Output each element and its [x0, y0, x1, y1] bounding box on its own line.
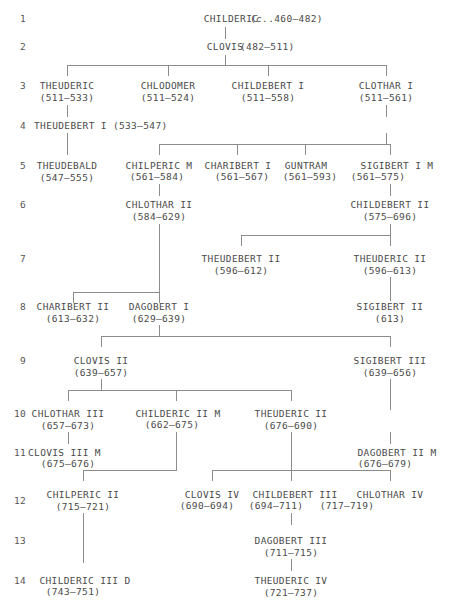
person-dates: (511–533)	[22, 92, 112, 104]
person-dagobert-ii-dates: (676–679)	[340, 458, 430, 470]
person-name: THEUDEBERT I (533–547)	[34, 120, 214, 132]
sibling-bar-gen9	[101, 336, 390, 337]
connector-childeric-ii-down	[176, 432, 177, 470]
connector-childebert-iii-to-dagobert-iii	[291, 513, 292, 525]
connector-chlothar-ii-down	[159, 224, 160, 292]
sibling-bar-gen10	[68, 390, 291, 391]
sibling-bar-gen8	[73, 292, 160, 293]
person-name: SIGIBERT II	[345, 301, 435, 313]
person-name: THEUDEBERT II	[196, 253, 286, 265]
person-childeric-iii: CHILDERIC III D	[33, 575, 137, 587]
person-name: THEUDERIC IV	[246, 575, 336, 587]
drop-theuderic-ii	[390, 235, 391, 246]
person-chilperic-i: CHILPERIC M	[112, 160, 206, 172]
person-name: CHILPERIC M	[112, 160, 206, 172]
drop-sigibert-i	[390, 144, 391, 155]
person-chlothar-iv: CHLOTHAR IV	[346, 489, 434, 501]
person-childeric-i-dates: (c..460–482)	[250, 13, 370, 25]
person-clovis-iii: CLOVIS III M	[28, 447, 138, 459]
person-dates: (715–721)	[38, 501, 128, 513]
drop-charibert-i	[237, 144, 238, 155]
person-name: CHLOTHAR III	[23, 408, 113, 420]
connector-childebert-ii-down	[390, 224, 391, 235]
person-dates: (629–639)	[114, 313, 204, 325]
person-sigibert-iii: SIGIBERT III (639–656)	[345, 355, 435, 378]
generation-number-8: 8	[20, 301, 26, 312]
connector-theuderic-ii-676-down	[291, 432, 292, 470]
person-name: CHILDEBERT III	[247, 489, 343, 501]
person-theudebert-ii: THEUDEBERT II (596–612)	[196, 253, 286, 276]
person-name: THEUDEBALD	[22, 160, 112, 172]
person-dates: (613–632)	[28, 313, 118, 325]
person-dates: (482–511)	[240, 41, 350, 53]
person-dates: (721–737)	[246, 587, 336, 599]
drop-theudebert-ii	[241, 235, 242, 246]
generation-number-14: 14	[14, 575, 26, 586]
drop-clovis-iv	[212, 470, 213, 481]
person-dates: (575–696)	[345, 211, 435, 223]
person-childebert-i: CHILDEBERT I (511–558)	[223, 80, 313, 103]
person-clovis-iii-dates: (675–676)	[23, 458, 113, 470]
person-dagobert-i: DAGOBERT I (629–639)	[114, 301, 204, 324]
drop-guntram	[305, 144, 306, 155]
connector-chlothar-iii-to-clovis-iii	[68, 432, 69, 444]
person-dates: (584–629)	[114, 211, 204, 223]
person-childeric-ii: CHILDERIC II M	[131, 408, 225, 420]
connector-clovis-ii-down	[101, 379, 102, 390]
person-name: THEUDERIC II	[246, 408, 336, 420]
generation-number-11: 11	[14, 447, 26, 458]
person-dates: (717–719)	[303, 500, 391, 512]
person-dates: (511–524)	[123, 92, 213, 104]
person-sigibert-i-dates: (561–575)	[334, 171, 422, 183]
person-dates: (511–561)	[341, 92, 431, 104]
drop-clovis-ii	[101, 336, 102, 347]
person-dates: (613)	[345, 313, 435, 325]
person-name: CHARIBERT I	[194, 160, 282, 172]
connector-childeric-to-clovis	[225, 27, 226, 39]
connector-theuderic-ii-to-sigibert-ii	[390, 277, 391, 301]
generation-number-12: 12	[14, 495, 26, 506]
person-theuderic-i: THEUDERIC (511–533)	[22, 80, 112, 103]
generation-number-2: 2	[20, 41, 26, 52]
person-name: SIGIBERT I M	[342, 160, 452, 172]
person-dates: (561–584)	[112, 171, 202, 183]
generation-number-6: 6	[20, 199, 26, 210]
person-name: DAGOBERT III	[246, 535, 336, 547]
person-name: CHILDERIC III D	[33, 575, 137, 587]
person-dates: (639–656)	[345, 367, 435, 379]
person-chlothar-iii: CHLOTHAR III (657–673)	[23, 408, 113, 431]
person-charibert-i: CHARIBERT I	[194, 160, 282, 172]
person-dates: (639–657)	[56, 367, 146, 379]
person-clovis-iv: CLOVIS IV	[168, 489, 256, 501]
person-name: CLOTHAR I	[341, 80, 431, 92]
drop-childebert-i	[268, 65, 269, 76]
person-chlodomer: CHLODOMER (511–524)	[123, 80, 213, 103]
person-dates: (657–673)	[23, 420, 113, 432]
drop-theuderic-i	[67, 65, 68, 76]
person-dagobert-iii: DAGOBERT III (711–715)	[246, 535, 336, 558]
generation-number-4: 4	[20, 120, 26, 131]
connector-sigibert-iii-to-dagobert-ii	[390, 432, 391, 444]
connector-theuderic-i-to-theudebert-i	[67, 105, 68, 117]
person-sigibert-i: SIGIBERT I M	[342, 160, 452, 172]
person-name: CHILDERIC II M	[131, 408, 225, 420]
person-name: CHILDEBERT I	[223, 80, 313, 92]
person-dates: (743–751)	[28, 586, 118, 598]
drop-chlothar-iv	[390, 470, 391, 481]
person-childebert-iii: CHILDEBERT III	[247, 489, 343, 501]
generation-number-7: 7	[20, 253, 26, 264]
drop-childebert-iii	[291, 470, 292, 481]
person-clovis-ii: CLOVIS II (639–657)	[56, 355, 146, 378]
sibling-bar-gen12-left	[83, 470, 177, 471]
person-dates: .460–482)	[268, 13, 323, 24]
connector-theudebert-i-to-theudebald	[67, 133, 68, 155]
person-theuderic-ii-676: THEUDERIC II (676–690)	[246, 408, 336, 431]
person-name: CLOVIS II	[56, 355, 146, 367]
person-name: SIGIBERT III	[345, 355, 435, 367]
person-chilperic-i-dates: (561–584)	[112, 171, 202, 183]
person-name: GUNTRAM	[272, 160, 340, 172]
person-dagobert-ii: DAGOBERT II M	[345, 447, 449, 459]
connector-clovis-down	[225, 55, 226, 65]
connector-chilperic-ii-down	[83, 513, 84, 563]
person-dates: (596–613)	[345, 265, 435, 277]
